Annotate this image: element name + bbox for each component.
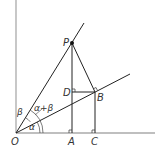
label-p: P bbox=[63, 37, 70, 48]
label-c: C bbox=[91, 136, 98, 147]
label-alpha: α bbox=[29, 122, 35, 132]
point-p-dot bbox=[70, 41, 74, 45]
geometry-diagram: P D B O A C β α+β α bbox=[0, 0, 163, 157]
label-alpha-plus-beta: α+β bbox=[34, 103, 53, 113]
angle-arc-alpha bbox=[37, 122, 40, 133]
label-a: A bbox=[67, 136, 75, 147]
label-d: D bbox=[63, 87, 71, 98]
segment-pb bbox=[72, 43, 95, 92]
label-beta: β bbox=[16, 107, 23, 117]
ray-op bbox=[16, 23, 84, 133]
label-b: B bbox=[97, 92, 104, 103]
label-o: O bbox=[11, 136, 19, 147]
